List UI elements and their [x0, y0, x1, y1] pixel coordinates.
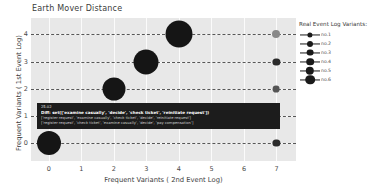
legend-item[interactable]: no.2: [299, 39, 385, 48]
legend-label: no.3: [321, 50, 331, 55]
legend-dot: [307, 41, 313, 47]
data-point[interactable]: [272, 30, 280, 38]
legend-item[interactable]: no.1: [299, 30, 385, 39]
x-tick-label: 7: [274, 165, 278, 173]
y-tick-label: 4: [24, 30, 28, 38]
legend-dot: [306, 66, 314, 74]
data-point[interactable]: [102, 77, 125, 100]
legend-items: no.1no.2no.3no.4no.5no.6: [299, 30, 385, 84]
legend-marker: [299, 48, 321, 57]
legend-dot: [305, 75, 315, 85]
y-tick-label: 1: [24, 112, 28, 120]
x-axis-ticks: 01234567: [31, 165, 296, 175]
y-axis-label: Frequent Variants ( 1st Event Log): [15, 18, 23, 168]
legend-label: no.1: [321, 32, 331, 37]
legend-label: no.4: [321, 59, 331, 64]
data-point[interactable]: [37, 131, 61, 155]
y-tick-label: 3: [24, 58, 28, 66]
legend-marker: [299, 39, 321, 48]
y-tick-label: 2: [24, 85, 28, 93]
data-point[interactable]: [134, 49, 159, 74]
chart-root: Earth Mover Distance 01234 01234567 Freq…: [0, 0, 387, 194]
legend: Real Event Log Variants: no.1no.2no.3no.…: [299, 21, 385, 84]
data-point[interactable]: [165, 21, 192, 48]
legend-item[interactable]: no.5: [299, 66, 385, 75]
data-point[interactable]: [273, 140, 280, 147]
legend-dot: [307, 49, 314, 56]
x-tick-label: 2: [112, 165, 116, 173]
dashed-line: [31, 143, 296, 144]
legend-item[interactable]: no.3: [299, 48, 385, 57]
x-tick-label: 5: [209, 165, 213, 173]
legend-label: no.2: [321, 41, 331, 46]
data-point[interactable]: [273, 85, 280, 92]
x-tick-label: 4: [177, 165, 181, 173]
tooltip-trace-2: ['register request', 'check ticket', 'ex…: [41, 121, 277, 126]
x-tick-label: 6: [242, 165, 246, 173]
legend-label: no.5: [321, 68, 331, 73]
dashed-line: [31, 34, 296, 35]
legend-marker: [299, 75, 321, 84]
x-tick-label: 0: [47, 165, 51, 173]
tooltip: 25.02 Diff: set(['examine casually', 'de…: [37, 103, 280, 129]
y-tick-label: 0: [24, 139, 28, 147]
x-tick-label: 1: [79, 165, 83, 173]
chart-title: Earth Mover Distance: [32, 4, 122, 13]
plot-area[interactable]: [31, 18, 296, 161]
data-point[interactable]: [273, 58, 280, 65]
legend-title: Real Event Log Variants:: [299, 21, 385, 27]
legend-item[interactable]: no.6: [299, 75, 385, 84]
dashed-line: [31, 89, 296, 90]
legend-dot: [306, 58, 314, 66]
legend-marker: [299, 57, 321, 66]
legend-label: no.6: [321, 77, 331, 82]
x-axis-label: Frequent Variants ( 2nd Event Log): [31, 176, 296, 184]
x-tick-label: 3: [144, 165, 148, 173]
legend-marker: [299, 30, 321, 39]
legend-dot: [307, 32, 312, 37]
legend-marker: [299, 66, 321, 75]
legend-item[interactable]: no.4: [299, 57, 385, 66]
dashed-line: [31, 62, 296, 63]
